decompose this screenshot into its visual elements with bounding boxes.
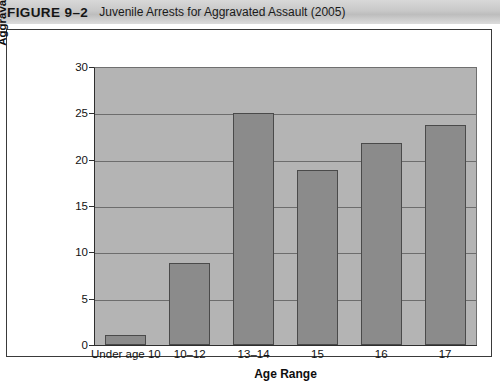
bars-layer xyxy=(94,67,477,345)
y-axis-label-15: 15 xyxy=(60,200,88,212)
bar-3 xyxy=(297,170,338,345)
x-axis-label-4: 16 xyxy=(375,348,388,360)
chart-card: 051015202530 Percentage of Juvenile Aggr… xyxy=(6,29,492,357)
y-axis-label-0: 0 xyxy=(60,339,88,351)
figure-number: FIGURE 9–2 xyxy=(7,5,88,20)
x-axis-label-0: Under age 10 xyxy=(91,348,161,360)
y-axis-labels: 051015202530 xyxy=(60,67,88,345)
bar-2 xyxy=(233,113,274,345)
y-axis-label-10: 10 xyxy=(60,246,88,258)
y-axis-title: Percentage of Juvenile Aggravated-Assaul… xyxy=(0,0,9,90)
bar-4 xyxy=(361,143,402,345)
y-axis-title-line-2: Aggravated-Assault Arrests xyxy=(0,0,9,90)
y-axis-label-25: 25 xyxy=(60,107,88,119)
y-axis-label-5: 5 xyxy=(60,293,88,305)
x-axis-label-3: 15 xyxy=(311,348,324,360)
bar-0 xyxy=(105,335,146,345)
bar-1 xyxy=(169,263,210,345)
figure-title: Juvenile Arrests for Aggravated Assault … xyxy=(99,5,345,19)
x-axis-label-1: 10–12 xyxy=(174,348,206,360)
x-axis-labels: Under age 1010–1213–14151617 xyxy=(94,348,477,366)
bar-5 xyxy=(425,125,466,345)
figure-header-band: FIGURE 9–2 Juvenile Arrests for Aggravat… xyxy=(0,0,500,24)
x-axis-label-5: 17 xyxy=(439,348,452,360)
y-axis-label-30: 30 xyxy=(60,61,88,73)
y-axis-label-20: 20 xyxy=(60,154,88,166)
x-axis-label-2: 13–14 xyxy=(238,348,270,360)
x-axis-line xyxy=(94,345,477,346)
x-axis-title: Age Range xyxy=(94,367,477,381)
